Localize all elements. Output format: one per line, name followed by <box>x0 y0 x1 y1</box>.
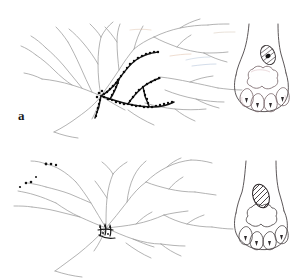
paw-inset-b <box>235 161 289 250</box>
panel-a-drawing <box>0 0 296 139</box>
panel-b: b <box>0 139 296 278</box>
unlabeled-branches-b <box>14 158 233 277</box>
paw-outline-a <box>235 24 289 112</box>
terminal-dots-b <box>19 163 57 189</box>
paw-inset-a <box>235 24 290 112</box>
figure-canvas: a <box>0 0 296 278</box>
panel-a: a <box>0 0 296 139</box>
panel-label-a: a <box>18 109 25 122</box>
unlabeled-branches-a <box>21 19 242 138</box>
color-fringe-artifacts-a <box>130 29 235 66</box>
receptive-field-oval-b <box>244 174 282 228</box>
rf-hatching-b <box>244 174 282 228</box>
panel-b-drawing <box>0 139 296 278</box>
